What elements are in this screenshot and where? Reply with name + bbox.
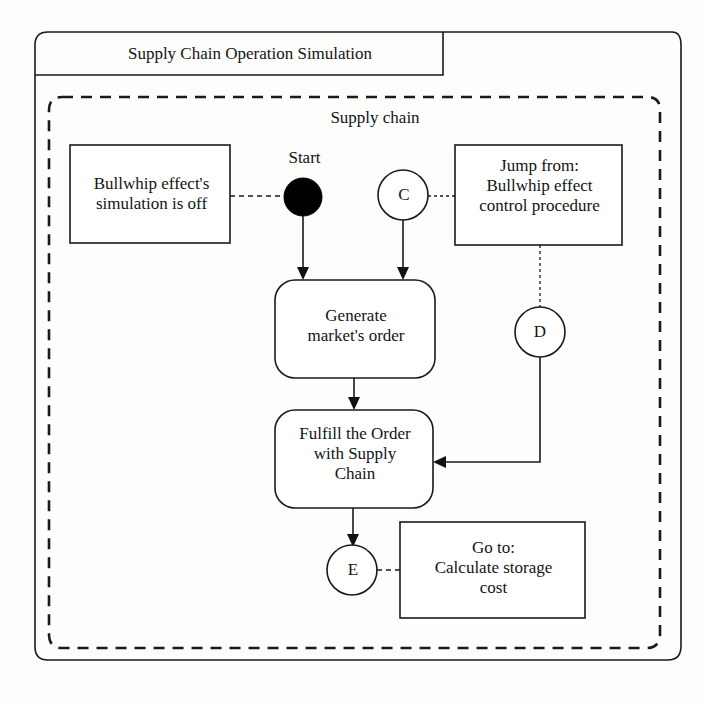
title-compartment-divider [35, 32, 443, 75]
diagram-canvas: Supply Chain Operation Simulation Supply… [0, 0, 705, 702]
arrowhead-d-to-fulfill [433, 456, 446, 468]
start-node [284, 178, 322, 216]
flowchart-graphics [0, 0, 705, 702]
edge-d-to-fulfill [443, 357, 540, 462]
arrowhead-generate-to-fulfill [348, 397, 360, 410]
connector-c-node [378, 170, 428, 220]
arrowhead-start-to-generate [297, 267, 309, 280]
note-jump-box [455, 145, 622, 245]
arrowhead-c-to-generate [397, 267, 409, 280]
action-fulfill-box [275, 410, 433, 508]
action-generate-box [275, 280, 435, 378]
note-goto-box [400, 522, 585, 618]
note-bullwhip-box [70, 145, 230, 243]
connector-d-node [515, 307, 565, 357]
connector-e-node [327, 545, 377, 595]
